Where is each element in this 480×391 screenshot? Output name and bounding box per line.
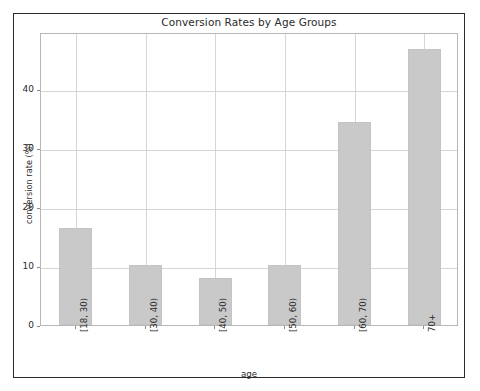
y-axis-tick-label: 0: [8, 321, 34, 330]
gridline-horizontal: [41, 268, 457, 269]
plot-area: [40, 33, 458, 326]
y-axis-tick-mark: [37, 208, 41, 209]
x-axis-tick-mark: [354, 326, 355, 330]
gridline-horizontal: [41, 209, 457, 210]
gridline-horizontal: [41, 91, 457, 92]
x-axis-tick-label: [40, 50): [218, 298, 228, 332]
x-axis-tick-mark: [75, 326, 76, 330]
gridline-horizontal: [41, 150, 457, 151]
x-axis-tick-label: 70+: [427, 314, 437, 332]
x-axis-tick-label: [18, 30): [79, 298, 89, 332]
y-axis-tick-label: 10: [8, 262, 34, 271]
x-axis-tick-label: [60, 70): [358, 298, 368, 332]
y-axis-tick-mark: [37, 90, 41, 91]
x-axis-label: age: [40, 369, 458, 379]
x-axis-tick-mark: [423, 326, 424, 330]
y-axis-tick-mark: [37, 267, 41, 268]
x-axis-tick-mark: [214, 326, 215, 330]
y-axis-tick-mark: [37, 326, 41, 327]
x-axis-tick-mark: [145, 326, 146, 330]
x-axis-tick-label: [50, 60): [288, 298, 298, 332]
y-axis-tick-mark: [37, 149, 41, 150]
x-axis-tick-label: [30, 40): [149, 298, 159, 332]
chart-title: Conversion Rates by Age Groups: [40, 16, 458, 28]
y-axis-tick-label: 40: [8, 85, 34, 94]
y-axis-label: conversion rate (%): [24, 143, 34, 224]
bar: [338, 122, 371, 325]
figure-canvas: Conversion Rates by Age Groups 010203040…: [0, 0, 480, 391]
x-axis-tick-mark: [284, 326, 285, 330]
bar: [408, 49, 441, 325]
